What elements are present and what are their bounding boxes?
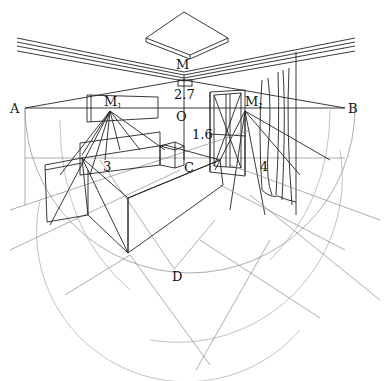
side-table	[160, 142, 184, 168]
wall-picture-frame	[87, 95, 158, 122]
label-a: A	[10, 102, 19, 115]
label-m2: M2	[245, 95, 263, 110]
label-d: D	[172, 270, 182, 283]
label-height-ceiling: 2.7	[174, 88, 195, 101]
label-dim-left: 3	[103, 160, 111, 173]
label-o: O	[176, 110, 187, 123]
label-b: B	[348, 102, 358, 115]
measuring-arc-left	[60, 120, 130, 290]
station-arc-outer	[25, 108, 355, 273]
sofa	[45, 132, 223, 253]
label-height-window: 1.6	[192, 128, 213, 141]
m2-rays	[215, 111, 330, 215]
label-m1-sub: 1	[117, 102, 121, 110]
label-m1: M1	[104, 95, 122, 110]
window	[210, 90, 245, 176]
curtain	[260, 68, 296, 205]
perspective-diagram: M A B M1 M2 2.7 O 1.6 3 C 4 D	[0, 0, 390, 381]
label-m1-text: M	[104, 94, 117, 109]
label-c: C	[184, 161, 194, 174]
label-m2-text: M	[245, 94, 258, 109]
label-dim-right: 4	[260, 160, 268, 173]
ceiling-light	[146, 12, 228, 59]
label-m2-sub: 2	[258, 102, 262, 110]
label-m: M	[176, 58, 189, 71]
diagram-lines	[0, 0, 390, 381]
